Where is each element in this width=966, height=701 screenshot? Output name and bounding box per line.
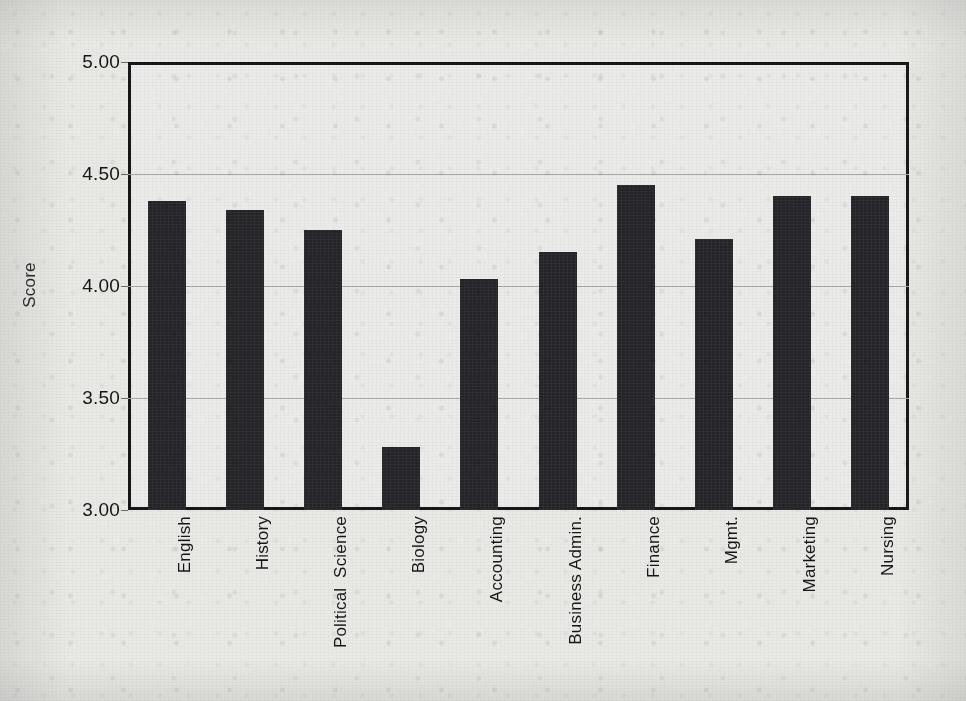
bar	[148, 201, 186, 510]
bars-group	[128, 62, 909, 510]
x-axis-tick-label: English	[175, 516, 195, 573]
x-axis-tick-label: Biology	[409, 516, 429, 573]
bar	[226, 210, 264, 510]
y-axis-title: Score	[20, 262, 40, 307]
bar	[460, 279, 498, 510]
y-axis-tick-mark	[121, 510, 128, 511]
y-axis-tick-label: 4.50	[56, 163, 120, 185]
y-axis-tick-labels: 5.004.504.003.503.00	[52, 62, 120, 510]
bar	[539, 252, 577, 510]
x-axis-tick-labels: EnglishHistoryPolitical ScienceBiologyAc…	[128, 516, 909, 691]
x-axis-tick-label: Marketing	[800, 516, 820, 592]
y-axis-tick-label: 3.50	[56, 387, 120, 409]
x-axis-tick-label: Finance	[644, 516, 664, 578]
x-axis-tick-label: Nursing	[878, 516, 898, 576]
y-axis-tick-mark	[121, 174, 128, 175]
bar	[617, 185, 655, 510]
x-axis-tick-label: Political Science	[331, 516, 351, 648]
bar	[304, 230, 342, 510]
bar	[695, 239, 733, 510]
x-axis-tick-label: Mgmt.	[722, 516, 742, 564]
bar	[851, 196, 889, 510]
x-axis-tick-label: Accounting	[487, 516, 507, 602]
chart-page: 5.004.504.003.503.00 Score EnglishHistor…	[0, 0, 966, 701]
y-axis-tick-mark	[121, 286, 128, 287]
bar	[382, 447, 420, 510]
y-axis-tick-label: 5.00	[56, 51, 120, 73]
y-axis-tick-label: 4.00	[56, 275, 120, 297]
x-axis-tick-label: History	[253, 516, 273, 570]
y-axis-tick-mark	[121, 398, 128, 399]
y-axis-tick-mark	[121, 62, 128, 63]
x-axis-tick-label: Business Admin.	[566, 516, 586, 645]
bar	[773, 196, 811, 510]
y-axis-tick-label: 3.00	[56, 499, 120, 521]
